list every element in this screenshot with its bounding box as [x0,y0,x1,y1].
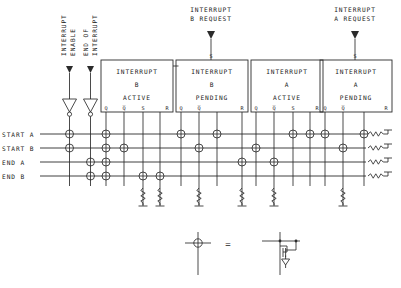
signal-bus-lines [40,134,366,176]
circuit-diagram-page: INTERRUPT ENABLE END OF INTERRUPT INTERR… [0,0,401,288]
resistor-rail [368,144,392,150]
interrupt-b-request-line2: B REQUEST [190,15,232,22]
pin-drop-wires [106,112,364,205]
cross-junction [289,130,297,138]
b-pending-line1: INTERRUPT [191,68,233,75]
row-label-end-b: END B [2,173,25,180]
label-interrupt-enable: INTERRUPT ENABLE [60,14,76,56]
interrupt-a-request-line1: INTERRUPT [334,6,376,13]
pin-s-b-active: S [141,105,144,111]
cross-junction [120,144,128,152]
pin-qbar-a-active: Q̅ [272,105,276,111]
cross-junction [102,144,110,152]
a-active-line3: ACTIVE [273,94,301,101]
legend-mosfet-transistor-symbol [262,232,300,275]
pin-qbar-a-pending: Q̅ [341,105,345,111]
b-pending-line2: B [210,81,215,88]
legend-equals: = [225,239,231,249]
cross-junction [102,158,110,166]
cross-junction [238,158,246,166]
row-label-start-b: START B [2,145,34,152]
input-arrow-interrupt-a-request: S [351,31,359,60]
a-pending-line3: PENDING [340,94,372,101]
row-label-start-a: START A [2,131,34,138]
label-interrupt-a-request: INTERRUPT A REQUEST [334,6,376,22]
interrupt-enable-line1: INTERRUPT [60,14,67,56]
end-of-interrupt-line2: INTERRUPT [91,14,98,56]
pin-r-b-pending: R [240,105,244,111]
cross-junction [102,130,110,138]
b-pending-line3: PENDING [196,94,228,101]
pin-r-a-active: R [315,105,319,111]
cross-junction [195,144,203,152]
a-pending-line2: A [354,81,359,88]
cross-junction [177,130,185,138]
b-active-line2: B [135,81,140,88]
pin-q-b-active: Q [104,105,107,111]
resistor-rail [368,130,392,136]
inverter-interrupt-enable [63,99,77,186]
pin-s-b-pending: S [209,53,212,59]
box-interrupt-b-active[interactable]: INTERRUPT B ACTIVE Q Q̅ S R [101,60,173,112]
box-interrupt-a-active[interactable]: INTERRUPT A ACTIVE Q Q̅ S R [251,60,323,112]
circuit-diagram-svg: INTERRUPT ENABLE END OF INTERRUPT INTERR… [0,0,401,288]
label-interrupt-b-request: INTERRUPT B REQUEST [190,6,232,22]
cross-junction [66,130,74,138]
input-arrow-interrupt-b-request: S [207,31,215,60]
cross-junction [87,172,95,180]
pulldown-resistors [139,188,348,206]
pin-r-a-pending: R [384,105,388,111]
box-interrupt-a-pending[interactable]: INTERRUPT A PENDING Q Q̅ R [320,60,392,112]
b-active-line1: INTERRUPT [116,68,158,75]
interrupt-a-request-line2: A REQUEST [334,15,376,22]
pullup-resistors [368,130,392,178]
legend-cross-junction-symbol [185,232,211,275]
b-active-line3: ACTIVE [123,94,151,101]
pin-qbar-b-active: Q̅ [122,105,126,111]
cross-junction [321,130,329,138]
pin-q-b-pending: Q [179,105,182,111]
cross-junction [360,130,368,138]
cross-junction [87,158,95,166]
resistor-rail [368,172,392,178]
cross-junction [339,144,347,152]
cross-junction [66,144,74,152]
interrupt-b-request-line1: INTERRUPT [190,6,232,13]
pin-r-b-active: R [165,105,169,111]
pin-qbar-b-pending: Q̅ [197,105,201,111]
pin-s-a-pending: S [353,53,356,59]
input-arrow-interrupt-enable [66,66,73,99]
cross-junction [213,130,221,138]
cross-junction [252,144,260,152]
a-active-line2: A [285,81,290,88]
pin-q-a-pending: Q [323,105,326,111]
a-active-line1: INTERRUPT [266,68,308,75]
cross-junction [139,172,147,180]
pin-q-a-active: Q [254,105,257,111]
interrupt-enable-line2: ENABLE [69,28,76,56]
resistor-rail [368,158,392,164]
end-of-interrupt-line1: END OF [82,28,89,56]
pin-s-a-active: S [291,105,294,111]
a-pending-line1: INTERRUPT [335,68,377,75]
input-arrow-end-of-interrupt [87,66,94,99]
box-interrupt-b-pending[interactable]: INTERRUPT B PENDING Q Q̅ R [176,60,248,112]
row-label-end-a: END A [2,159,25,166]
cross-junction [156,172,164,180]
cross-junction [102,172,110,180]
cross-junction [270,158,278,166]
legend: = [185,232,300,275]
label-end-of-interrupt: END OF INTERRUPT [82,14,98,56]
cross-junction [306,130,314,138]
